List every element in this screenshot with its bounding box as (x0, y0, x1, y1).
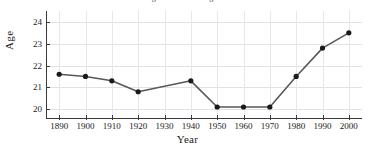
x-tick-label-1950: 1950 (208, 121, 226, 131)
x-tick-label-1960: 1960 (235, 121, 253, 131)
data-series-age (46, 11, 362, 119)
x-tick-label-1930: 1930 (156, 121, 174, 131)
plot-area: 2021222324 18901900191019201930194019501… (46, 11, 362, 119)
data-point-1990 (320, 45, 325, 50)
data-point-1890 (57, 72, 62, 77)
x-tick-label-1940: 1940 (182, 121, 200, 131)
data-point-1910 (109, 78, 114, 83)
data-point-1960 (241, 104, 246, 109)
x-tick-label-1990: 1990 (314, 121, 332, 131)
x-tick-label-2000: 2000 (340, 121, 358, 131)
data-point-1940 (188, 78, 193, 83)
chart-figure: Median Age at First Marriage for Women A… (0, 0, 375, 154)
data-point-1920 (136, 89, 141, 94)
data-point-1980 (294, 74, 299, 79)
data-point-1970 (267, 104, 272, 109)
data-point-2000 (346, 30, 351, 35)
x-tick-label-1910: 1910 (103, 121, 121, 131)
y-tick-label-23: 23 (33, 39, 42, 49)
x-tick-label-1890: 1890 (50, 121, 68, 131)
x-axis-title: Year (0, 133, 375, 145)
x-tick-label-1920: 1920 (129, 121, 147, 131)
x-tick-label-1980: 1980 (287, 121, 305, 131)
data-point-1900 (83, 74, 88, 79)
y-axis-title: Age (3, 30, 15, 50)
x-tick-label-1900: 1900 (77, 121, 95, 131)
data-point-1950 (215, 104, 220, 109)
y-tick-label-22: 22 (33, 61, 42, 71)
chart-title: Median Age at First Marriage for Women (0, 0, 375, 2)
x-tick-label-1970: 1970 (261, 121, 279, 131)
data-markers (57, 30, 352, 109)
line-path (59, 33, 349, 107)
y-tick-label-21: 21 (33, 82, 42, 92)
y-tick-label-20: 20 (33, 104, 42, 114)
y-tick-label-24: 24 (33, 17, 42, 27)
